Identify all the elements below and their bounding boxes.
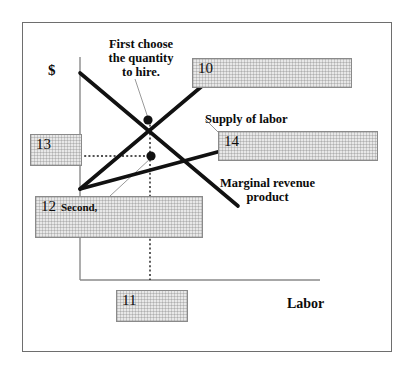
callout-12-number: 12 xyxy=(41,199,56,215)
wage-dot xyxy=(146,151,155,160)
callout-12-text: Second, xyxy=(61,199,97,214)
y-axis-label: $ xyxy=(48,62,56,79)
callout-14-number: 14 xyxy=(224,134,239,150)
x-axis-label: Labor xyxy=(287,296,324,312)
annotation-first-choose-line1: First choose xyxy=(95,37,187,51)
equilibrium-dot xyxy=(143,115,152,124)
callout-box-12[interactable]: 12 Second, xyxy=(35,196,203,238)
callout-10-number: 10 xyxy=(198,61,213,77)
annotation-first-choose-line3: to hire. xyxy=(95,65,187,79)
annotation-first-choose: First choose the quantity to hire. xyxy=(95,37,187,79)
leader-first-choose xyxy=(135,79,148,118)
callout-13-number: 13 xyxy=(36,137,51,153)
callout-box-11[interactable]: 11 xyxy=(116,290,188,322)
annotation-marginal-revenue-product: Marginal revenue product xyxy=(205,176,330,204)
callout-11-number: 11 xyxy=(122,293,136,309)
callout-box-10[interactable]: 10 xyxy=(192,58,352,88)
figure-canvas: $ Labor First choose the quantity to hir… xyxy=(0,0,415,377)
callout-box-14[interactable]: 14 xyxy=(218,131,378,161)
annotation-supply-of-labor: Supply of labor xyxy=(205,112,330,126)
callout-box-13[interactable]: 13 xyxy=(30,134,82,166)
annotation-mrp-line1: Marginal revenue xyxy=(205,176,330,190)
annotation-mrp-line2: product xyxy=(205,190,330,204)
annotation-first-choose-line2: the quantity xyxy=(95,51,187,65)
